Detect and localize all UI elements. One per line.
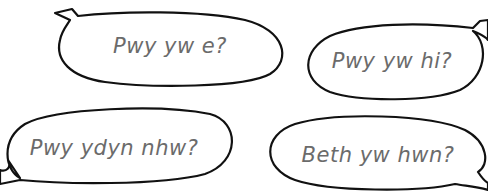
bubble-1-text: Pwy yw e? <box>113 34 227 58</box>
speech-bubbles-canvas: Pwy yw e? Pwy yw hi? Pwy ydyn nhw? Beth … <box>0 0 488 191</box>
bubble-4-text: Beth yw hwn? <box>302 143 455 167</box>
bubble-3-text: Pwy ydyn nhw? <box>30 136 199 160</box>
bubble-2-text: Pwy yw hi? <box>332 49 453 73</box>
